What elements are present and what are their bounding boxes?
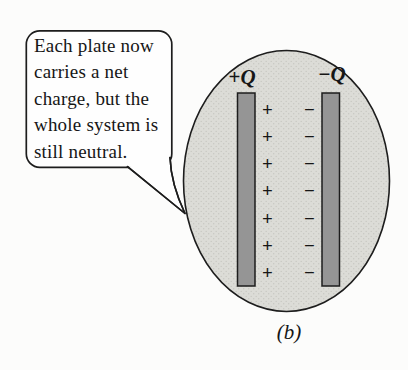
minus-charge: −	[304, 181, 315, 200]
callout-line: Each plate now	[34, 33, 158, 59]
plus-sign: +	[228, 65, 240, 89]
positive-plate	[238, 93, 256, 286]
positive-plate-charge-label: +Q	[226, 65, 258, 90]
negative-plate	[322, 93, 340, 286]
figure-capacitor-charged-plates: Each plate now carries a net charge, but…	[0, 0, 408, 370]
plus-charge: +	[262, 100, 273, 119]
speech-bubble-tail	[128, 158, 186, 214]
negative-charge-column: − − − − − − −	[299, 96, 320, 286]
minus-charge: −	[304, 236, 315, 255]
plus-charge: +	[262, 263, 273, 282]
minus-charge: −	[304, 100, 315, 119]
callout-line: still neutral.	[34, 139, 158, 165]
minus-charge: −	[304, 154, 315, 173]
charge-symbol-q: Q	[240, 65, 255, 89]
minus-sign: −	[318, 62, 330, 86]
subfigure-caption: (b)	[265, 320, 313, 345]
callout-text: Each plate now carries a net charge, but…	[34, 33, 158, 165]
callout-line: charge, but the	[34, 86, 158, 112]
plus-charge: +	[262, 154, 273, 173]
minus-charge: −	[304, 263, 315, 282]
plus-charge: +	[262, 209, 273, 228]
minus-charge: −	[304, 209, 315, 228]
plus-charge: +	[262, 181, 273, 200]
positive-charge-column: + + + + + + +	[257, 96, 278, 286]
plus-charge: +	[262, 127, 273, 146]
callout-line: whole system is	[34, 112, 158, 138]
system-boundary-ellipse	[184, 51, 390, 312]
plus-charge: +	[262, 236, 273, 255]
minus-charge: −	[304, 127, 315, 146]
negative-plate-charge-label: −Q	[315, 62, 349, 87]
charge-symbol-q: Q	[330, 62, 345, 86]
callout-line: carries a net	[34, 59, 158, 85]
